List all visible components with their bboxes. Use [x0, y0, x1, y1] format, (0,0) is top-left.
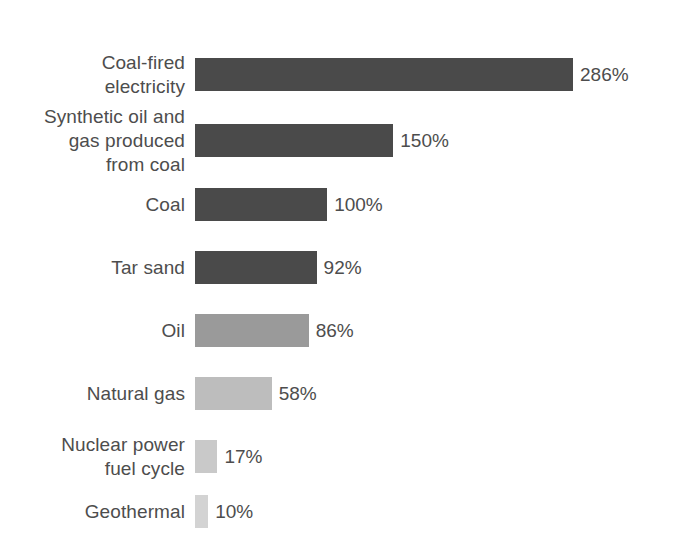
bar-chart: Coal-fired electricity 286% Synthetic oi… [0, 0, 682, 544]
bar-row: Tar sand 92% [0, 251, 682, 284]
category-label: Tar sand [0, 256, 185, 280]
value-label: 100% [334, 188, 383, 221]
bar-track: 286% [195, 58, 629, 91]
bar-row: Synthetic oil and gas produced from coal… [0, 124, 682, 157]
bar-rect [195, 377, 272, 410]
value-label: 150% [400, 124, 449, 157]
value-label: 58% [279, 377, 317, 410]
bar-track: 150% [195, 124, 449, 157]
bar-row: Coal 100% [0, 188, 682, 221]
bar-track: 10% [195, 495, 253, 528]
value-label: 17% [224, 440, 262, 473]
category-label: Oil [0, 319, 185, 343]
category-label: Geothermal [0, 500, 185, 524]
bar-rect [195, 251, 317, 284]
bar-track: 100% [195, 188, 383, 221]
category-label: Synthetic oil and gas produced from coal [0, 105, 185, 177]
bar-rect [195, 58, 573, 91]
bar-rect [195, 495, 208, 528]
bar-row: Natural gas 58% [0, 377, 682, 410]
bar-track: 58% [195, 377, 317, 410]
bar-rect [195, 440, 217, 473]
category-label: Coal [0, 193, 185, 217]
value-label: 10% [215, 495, 253, 528]
value-label: 86% [316, 314, 354, 347]
category-label: Coal-fired electricity [0, 51, 185, 99]
bar-rect [195, 124, 393, 157]
value-label: 92% [324, 251, 362, 284]
category-label: Natural gas [0, 382, 185, 406]
bar-track: 92% [195, 251, 362, 284]
bar-rect [195, 188, 327, 221]
value-label: 286% [580, 58, 629, 91]
bar-row: Geothermal 10% [0, 495, 682, 528]
category-label: Nuclear power fuel cycle [0, 433, 185, 481]
bar-rect [195, 314, 309, 347]
bar-track: 17% [195, 440, 263, 473]
bar-row: Nuclear power fuel cycle 17% [0, 440, 682, 473]
bar-row: Coal-fired electricity 286% [0, 58, 682, 91]
bar-track: 86% [195, 314, 354, 347]
bar-row: Oil 86% [0, 314, 682, 347]
